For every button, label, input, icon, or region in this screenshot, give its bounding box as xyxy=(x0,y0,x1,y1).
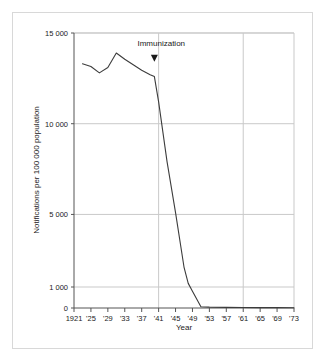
y-axis-ticks: 15 00010 0005 0001 0000 xyxy=(45,29,74,313)
x-tick-label: '61 xyxy=(238,314,248,323)
x-axis-title: Year xyxy=(176,323,193,332)
x-tick-label: '73 xyxy=(289,314,299,323)
x-tick-label: '65 xyxy=(255,314,265,323)
x-tick-label: '49 xyxy=(188,314,198,323)
annotation-label-immunization: Immunization xyxy=(137,39,185,48)
x-tick-label: '45 xyxy=(171,314,181,323)
x-tick-label: '33 xyxy=(120,314,130,323)
y-tick-label: 1 000 xyxy=(49,283,68,292)
y-axis-title: Notifications per 100 000 population xyxy=(32,106,41,234)
x-tick-label: '57 xyxy=(221,314,231,323)
y-tick-label: 10 000 xyxy=(45,120,68,129)
x-tick-label: '69 xyxy=(272,314,282,323)
y-tick-label: 0 xyxy=(64,304,68,313)
line-chart: 15 00010 0005 0001 0000 1921'25'29'33'37… xyxy=(0,0,326,363)
x-tick-label: '25 xyxy=(86,314,96,323)
x-tick-label: 1921 xyxy=(66,314,83,323)
y-tick-label: 5 000 xyxy=(49,210,68,219)
x-tick-label: '41 xyxy=(154,314,164,323)
figure-container: 15 00010 0005 0001 0000 1921'25'29'33'37… xyxy=(0,0,326,363)
x-tick-label: '29 xyxy=(103,314,113,323)
x-tick-label: '37 xyxy=(137,314,147,323)
x-tick-label: '53 xyxy=(204,314,214,323)
y-tick-label: 15 000 xyxy=(45,29,68,38)
x-axis-ticks: 1921'25'29'33'37'41'45'49'53'57'61'65'69… xyxy=(66,308,299,323)
